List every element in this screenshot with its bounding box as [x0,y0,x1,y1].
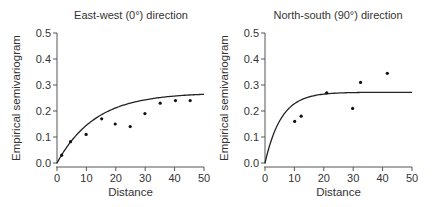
x-tick-label: 10 [80,172,92,184]
data-point [100,117,103,120]
fitted-model-curve [57,94,204,163]
chart-title: North-south (90°) direction [273,9,402,21]
fitted-model-curve [265,92,412,163]
x-tick-label: 30 [347,172,359,184]
y-tick-label: 0.0 [36,157,51,169]
y-tick-label: 0.2 [36,105,51,117]
data-point [159,102,162,105]
x-tick-label: 50 [406,172,418,184]
y-tick-label: 0.5 [36,27,51,39]
y-tick-label: 0.4 [36,53,51,65]
data-point [114,122,117,125]
data-point [69,140,72,143]
semivariogram-figure: East-west (0°) direction0.00.10.20.30.40… [0,0,432,207]
chart-title: East-west (0°) direction [74,9,188,21]
y-tick-label: 0.5 [244,27,259,39]
x-tick-label: 0 [262,172,268,184]
x-tick-label: 30 [139,172,151,184]
chart-panel-east-west: East-west (0°) direction0.00.10.20.30.40… [10,9,210,198]
data-point [189,99,192,102]
x-tick-label: 40 [168,172,180,184]
x-tick-label: 10 [288,172,300,184]
data-point [174,99,177,102]
data-point [85,133,88,136]
data-point [386,72,389,75]
y-tick-label: 0.0 [244,157,259,169]
x-tick-label: 50 [198,172,210,184]
y-axis-label: Empirical semivariogram [218,35,230,161]
data-point [293,120,296,123]
data-point [300,115,303,118]
chart-panel-north-south: North-south (90°) direction0.00.10.20.30… [218,9,418,198]
x-tick-label: 40 [376,172,388,184]
y-tick-label: 0.1 [36,131,51,143]
x-axis-label: Distance [316,186,361,198]
data-point [351,107,354,110]
y-tick-label: 0.2 [244,105,259,117]
y-tick-label: 0.3 [36,79,51,91]
data-point [325,91,328,94]
y-tick-label: 0.4 [244,53,259,65]
data-point [129,125,132,128]
data-point [359,81,362,84]
x-axis-label: Distance [108,186,153,198]
x-tick-label: 20 [110,172,122,184]
data-point [143,112,146,115]
y-axis-label: Empirical semivariogram [10,35,22,161]
x-tick-label: 0 [54,172,60,184]
data-point [60,154,63,157]
y-tick-label: 0.1 [244,131,259,143]
x-tick-label: 20 [318,172,330,184]
y-tick-label: 0.3 [244,79,259,91]
